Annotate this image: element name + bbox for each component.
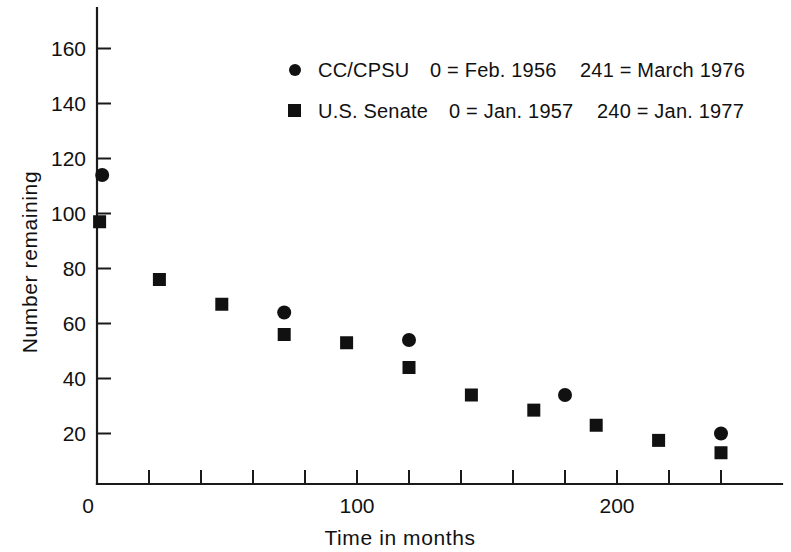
data-point-circle [402,333,416,347]
legend-row-0-label: CC/CPSU [318,59,409,81]
data-point-square [153,273,166,286]
legend-circle-marker-icon [289,64,301,76]
legend-row-1-note-end: 240 = Jan. 1977 [597,100,744,122]
data-point-circle [558,388,572,402]
legend-row-1-note-start: 0 = Jan. 1957 [449,100,573,122]
data-point-square [215,298,228,311]
data-point-circle [714,427,728,441]
y-axis-title: Number remaining [18,171,41,353]
data-point-square [652,434,665,447]
y-tick-label-140: 140 [51,92,86,115]
x-tick-label-100: 100 [339,494,374,517]
x-tick-label-0: 0 [82,494,94,517]
legend-row-1-label: U.S. Senate [318,100,428,122]
y-tick-label-60: 60 [63,312,86,335]
y-tick-label-100: 100 [51,202,86,225]
data-point-square [278,328,291,341]
legend-row-0-note-end: 241 = March 1976 [580,59,745,81]
y-tick-label-20: 20 [63,422,86,445]
y-tick-label-160: 160 [51,37,86,60]
legend: CC/CPSU 0 = Feb. 1956 241 = March 1976 U… [288,59,745,122]
data-point-square [590,419,603,432]
data-point-circle [95,168,109,182]
legend-row-0-note-start: 0 = Feb. 1956 [430,59,557,81]
y-tick-label-120: 120 [51,147,86,170]
data-point-circle [277,306,291,320]
chart-figure: 160 140 120 100 80 60 40 20 0 100 200 [0,0,791,552]
data-point-square [465,389,478,402]
x-axis-title: Time in months [324,526,475,549]
y-tick-label-80: 80 [63,257,86,280]
scatter-plot-svg: 160 140 120 100 80 60 40 20 0 100 200 [0,0,791,552]
data-point-square [340,336,353,349]
data-point-square [715,446,728,459]
data-point-square [403,361,416,374]
x-axis-ticks [97,470,721,484]
y-axis-ticks [97,49,111,434]
data-points-layer [93,168,728,459]
x-tick-label-200: 200 [599,494,634,517]
data-point-square [93,215,106,228]
data-point-square [527,404,540,417]
legend-square-marker-icon [288,104,301,117]
y-tick-label-40: 40 [63,367,86,390]
